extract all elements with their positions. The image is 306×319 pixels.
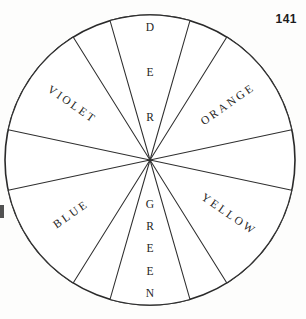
sector-label-letter: G — [146, 198, 154, 210]
figure-root: 141 REDORANGEYELLOWGREENBLUEVIOLET — [0, 0, 306, 319]
sector-label-letter: E — [146, 242, 153, 254]
sector-label-letter: E — [146, 265, 153, 277]
sector-label-letter: D — [146, 21, 154, 33]
sector-label-letter: E — [146, 66, 153, 78]
sector-label-letter: N — [146, 287, 155, 299]
color-wheel-diagram: REDORANGEYELLOWGREENBLUEVIOLET — [0, 0, 306, 319]
sector-label-letter: R — [146, 111, 154, 123]
sector-label-letter: R — [146, 220, 154, 232]
